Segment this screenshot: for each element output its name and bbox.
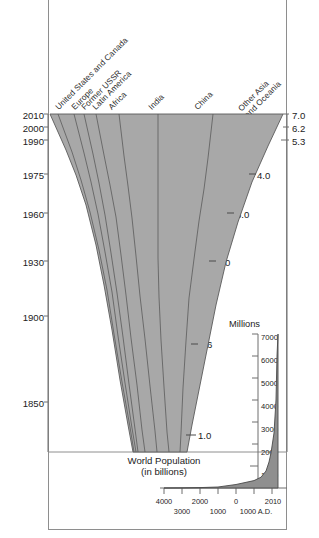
inset-xtick-0: 0 (224, 497, 248, 506)
inset-population-curve (164, 334, 278, 488)
inset-xtick-3000: 3000 (170, 507, 194, 516)
inset-xtick-1000: 1000 (206, 507, 230, 516)
inset-xtick-1000-ad: 1000 A.D. (234, 507, 278, 516)
inset-graphic (0, 0, 319, 538)
chart-canvas: United States and Canada Europe Former U… (0, 0, 319, 538)
inset-x-ticks (164, 488, 272, 494)
inset-xtick-2000: 2000 (188, 497, 212, 506)
inset-xtick-2010: 2010 (260, 497, 286, 506)
inset-xtick-4000: 4000 (152, 497, 176, 506)
inset-y-ticks (250, 334, 258, 466)
